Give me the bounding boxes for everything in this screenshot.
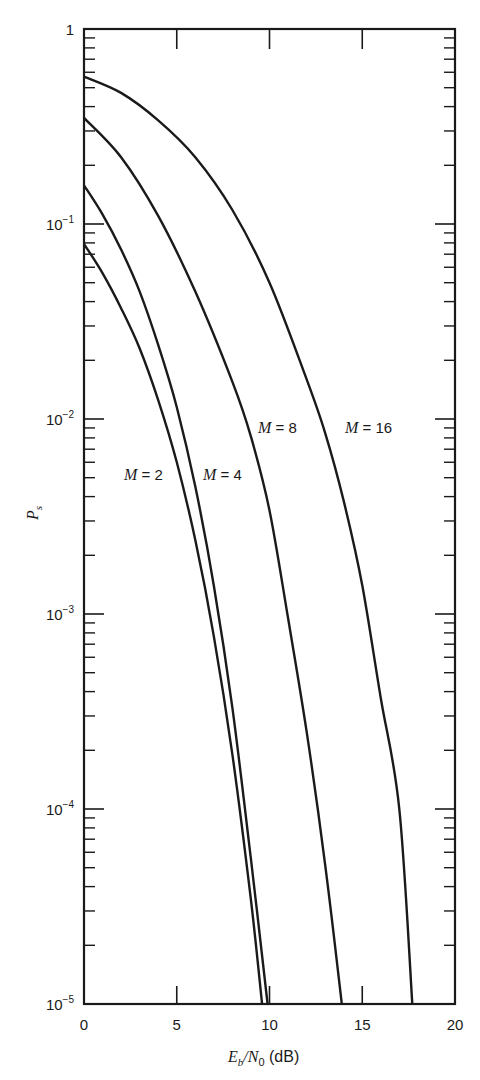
x-tick-label: 20 [447, 1016, 464, 1033]
curve-label: M = 2 [123, 466, 163, 483]
y-tick-label: 10−5 [46, 994, 75, 1013]
y-tick-label: 10−4 [46, 799, 75, 818]
curve-label: M = 4 [202, 466, 242, 483]
curve-m16 [84, 77, 412, 1004]
x-tick-label: 15 [354, 1016, 371, 1033]
x-axis-label: Eb/N0 (dB) [227, 1048, 299, 1068]
y-axis-label: Ps [24, 506, 44, 521]
x-tick-label: 5 [173, 1016, 181, 1033]
y-tick-label: 10−3 [46, 604, 75, 623]
y-tick-label: 10−1 [46, 214, 75, 233]
x-tick-label: 0 [80, 1016, 88, 1033]
curves [84, 77, 412, 1004]
y-tick-label: 1 [66, 21, 74, 38]
y-tick-label: 10−2 [46, 409, 75, 428]
curve-label: M = 16 [344, 419, 392, 436]
curve-label: M = 8 [257, 419, 297, 436]
x-tick-label: 10 [261, 1016, 278, 1033]
curve-labels: M = 2M = 4M = 8M = 16 [123, 419, 392, 483]
symbol-error-probability-chart: 05101520110−110−210−310−410−5 M = 2M = 4… [0, 0, 480, 1080]
curve-m2 [84, 244, 262, 1004]
curve-m4 [84, 185, 268, 1004]
